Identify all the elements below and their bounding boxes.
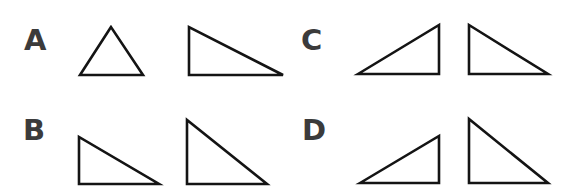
option-c-triangle-2: [469, 25, 548, 74]
triangle-options-figure: A B C D: [0, 0, 566, 196]
option-b-triangle-1: [79, 137, 159, 184]
option-d-triangle-1: [360, 136, 439, 183]
option-b-triangle-2: [187, 120, 267, 184]
option-d-triangles: [360, 119, 548, 183]
option-c-triangles: [358, 25, 548, 74]
option-d-triangle-2: [469, 119, 548, 183]
option-a-triangle-2: [189, 27, 283, 75]
option-a-triangles: [80, 27, 283, 75]
option-c-triangle-1: [358, 25, 439, 74]
option-a-triangle-1: [80, 27, 143, 75]
triangles-drawing: [0, 0, 566, 196]
option-b-triangles: [79, 120, 267, 184]
